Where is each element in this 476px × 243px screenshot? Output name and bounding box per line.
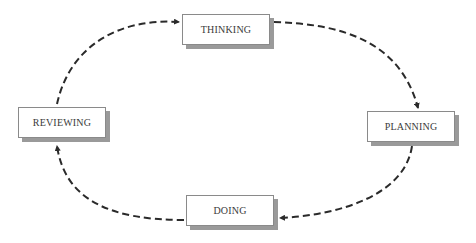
node-doing: DOING xyxy=(186,195,274,226)
node-thinking: THINKING xyxy=(182,14,270,45)
node-reviewing: REVIEWING xyxy=(18,107,106,138)
arrow-doing-to-reviewing xyxy=(57,146,184,220)
node-label: THINKING xyxy=(201,24,251,35)
node-planning: PLANNING xyxy=(367,111,455,142)
node-label: REVIEWING xyxy=(33,117,91,128)
arrow-reviewing-to-thinking xyxy=(57,22,179,104)
arrow-planning-to-doing xyxy=(280,146,412,218)
node-label: PLANNING xyxy=(385,121,438,132)
arrow-thinking-to-planning xyxy=(274,22,418,108)
node-label: DOING xyxy=(213,205,246,216)
